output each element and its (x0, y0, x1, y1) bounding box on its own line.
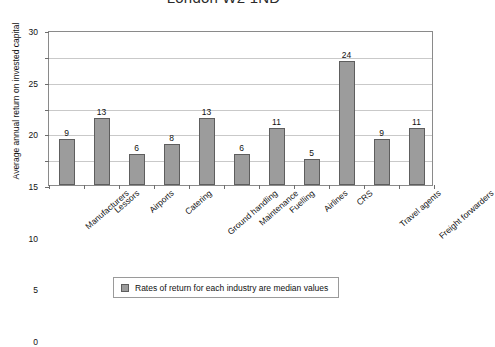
bar-value-label: 11 (412, 117, 421, 127)
bars-layer: 9136813611524911 (49, 32, 432, 185)
bar-value-label: 13 (202, 107, 211, 117)
plot-area: 051015202530 9136813611524911 (48, 31, 433, 186)
x-axis-category-label: Freight forwarders (436, 188, 495, 241)
bar-value-label: 6 (239, 143, 244, 153)
x-axis-category-label: Catering (182, 188, 213, 217)
x-axis-labels: ManufacturersLessorsAirportsCateringGrou… (48, 188, 433, 266)
bar-slot: 9 (59, 32, 75, 185)
chart-legend: Rates of return for each industry are me… (113, 277, 339, 298)
bar[interactable] (164, 144, 180, 185)
bar-slot: 6 (129, 32, 145, 185)
y-axis-tick-label: 15 (29, 182, 38, 192)
bar-slot: 11 (269, 32, 285, 185)
bar-value-label: 9 (64, 128, 69, 138)
bar[interactable] (129, 154, 145, 185)
bar-value-label: 6 (134, 143, 139, 153)
bar-slot: 13 (94, 32, 110, 185)
bar-value-label: 24 (342, 50, 351, 60)
bar-slot: 8 (164, 32, 180, 185)
y-axis-tick-label: 5 (33, 285, 38, 295)
bar[interactable] (94, 118, 110, 185)
bar[interactable] (339, 61, 355, 185)
bar-slot: 9 (374, 32, 390, 185)
y-axis-tick-label: 10 (29, 234, 38, 244)
bar[interactable] (234, 154, 250, 185)
x-axis-category-label: Travel agents (397, 188, 442, 229)
bar-slot: 5 (304, 32, 320, 185)
y-axis-tick-label: 20 (29, 130, 38, 140)
bar-value-label: 8 (169, 133, 174, 143)
bar-value-label: 13 (97, 107, 106, 117)
bar[interactable] (304, 159, 320, 185)
bar-value-label: 5 (309, 148, 314, 158)
bar[interactable] (59, 139, 75, 186)
bar[interactable] (374, 139, 390, 186)
bar[interactable] (269, 128, 285, 185)
bar-slot: 6 (234, 32, 250, 185)
bar-slot: 13 (199, 32, 215, 185)
bar-value-label: 11 (272, 117, 281, 127)
chart-title: London W2 1ND (0, 0, 447, 6)
y-axis-tick-label: 0 (33, 337, 38, 347)
bar-slot: 24 (339, 32, 355, 185)
bar-slot: 11 (409, 32, 425, 185)
x-axis-category-label: CRS (354, 188, 374, 207)
bar[interactable] (199, 118, 215, 185)
bar-value-label: 9 (379, 128, 384, 138)
y-axis-tick-label: 25 (29, 79, 38, 89)
y-axis-tick-label: 30 (29, 27, 38, 37)
legend-entry-label: Rates of return for each industry are me… (135, 283, 328, 293)
legend-swatch-icon (121, 284, 129, 292)
y-axis-title: Average annual return on invested capita… (11, 6, 21, 196)
bar[interactable] (409, 128, 425, 185)
x-axis-category-label: Airports (147, 188, 176, 215)
x-axis-category-label: Airlines (321, 188, 349, 214)
